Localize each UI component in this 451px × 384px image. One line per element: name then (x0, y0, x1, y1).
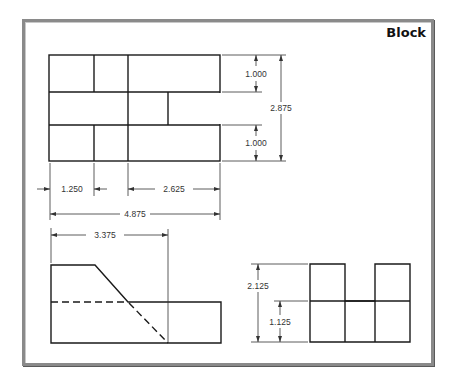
dim-right-width: 2.625 (163, 184, 185, 194)
side-view (310, 264, 410, 342)
dim-overall-width: 4.875 (124, 209, 146, 219)
top-view (49, 55, 220, 161)
dim-side-overall-height: 2.125 (247, 281, 269, 291)
dim-top-row-height: 1.000 (245, 69, 267, 79)
dim-overall-height: 2.875 (270, 103, 292, 113)
dim-side-base-height: 1.125 (269, 317, 291, 327)
technical-drawing: 1.000 1.000 2.875 1.250 2.625 4.875 3.37… (0, 0, 451, 384)
front-view (51, 229, 221, 343)
dim-bottom-row-height: 1.000 (245, 138, 267, 148)
side-view-dimensions: 2.125 1.125 (247, 264, 308, 342)
front-view-dimensions: 3.375 (51, 228, 168, 263)
top-view-width-dimensions: 1.250 2.625 4.875 (37, 163, 220, 220)
dim-slope-width: 3.375 (94, 230, 116, 240)
top-view-height-dimensions: 1.000 1.000 2.875 (222, 55, 292, 161)
dim-left-width: 1.250 (61, 184, 83, 194)
